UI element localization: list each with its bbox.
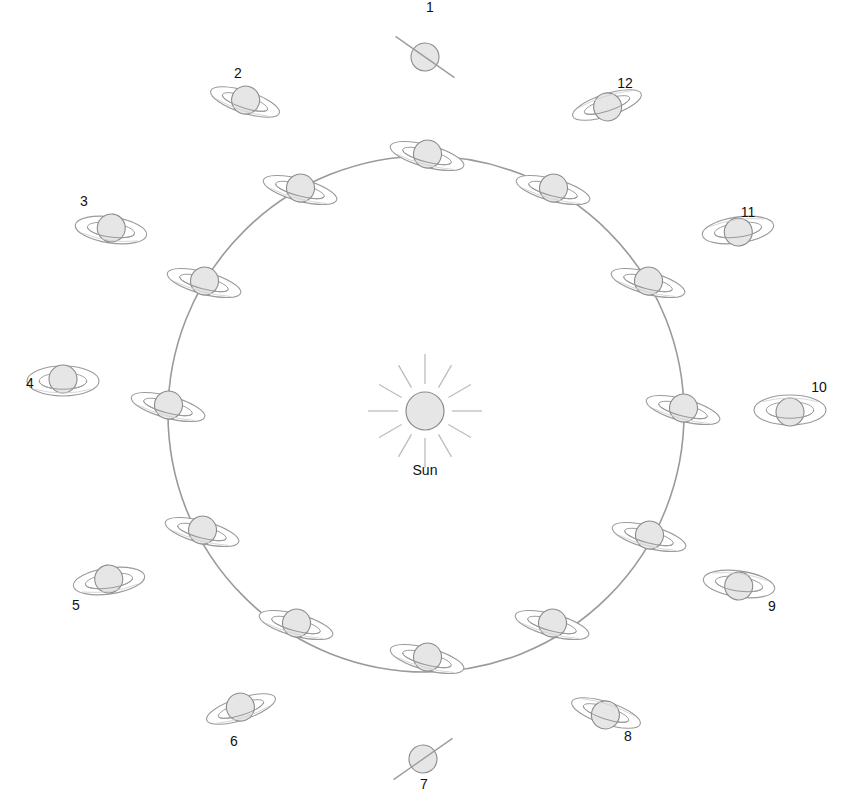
saturn-view-2 (207, 76, 284, 125)
saturn-view-9 (701, 566, 776, 605)
view-number-label: 9 (768, 598, 776, 614)
saturn-view-10 (754, 395, 826, 426)
saturn-orbit-diagram: Sun 123456789101112 (0, 0, 854, 792)
view-number-label: 10 (811, 379, 827, 395)
saturn-view-8 (567, 690, 644, 739)
saturn-view-5 (71, 560, 146, 599)
orbit-saturn-11 (164, 258, 245, 305)
planet-body (776, 398, 804, 426)
view-number-label: 11 (741, 204, 756, 220)
sun-ray (448, 385, 471, 398)
sun-disc (406, 392, 444, 430)
orbit-saturn-1 (387, 131, 468, 178)
view-number-label: 8 (624, 728, 632, 744)
orbit-saturn-12 (260, 165, 341, 212)
view-number-label: 7 (420, 776, 428, 792)
sun-ray (439, 434, 452, 457)
saturn-view-4 (27, 365, 99, 396)
sun-ray (399, 434, 412, 457)
saturn-view-3 (74, 209, 149, 248)
sun-ray (379, 425, 402, 438)
sun-ray (448, 425, 471, 438)
orbit-saturn-5 (609, 512, 690, 559)
orbit-saturn-9 (162, 507, 243, 554)
view-number-label: 2 (234, 65, 242, 81)
sun-label: Sun (413, 462, 438, 478)
saturn-view-12 (569, 82, 646, 131)
orbit-saturn-2 (513, 165, 594, 212)
saturn-view-1 (387, 25, 462, 89)
sun-ray (439, 365, 452, 388)
view-number-label: 6 (230, 733, 238, 749)
orbit-saturn-8 (256, 600, 337, 647)
sun-icon (368, 354, 482, 468)
saturn-view-11 (701, 212, 776, 251)
sun-ray (399, 365, 412, 388)
view-number-label: 5 (72, 597, 80, 613)
sun-ray (379, 385, 402, 398)
view-number-label: 1 (426, 0, 434, 15)
view-number-label: 4 (26, 375, 34, 391)
saturn-view-6 (202, 683, 279, 732)
view-number-label: 12 (617, 75, 633, 91)
view-number-label: 3 (80, 193, 88, 209)
orbit-saturn-7 (387, 634, 468, 681)
orbit-saturn-3 (608, 258, 689, 305)
